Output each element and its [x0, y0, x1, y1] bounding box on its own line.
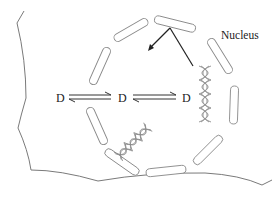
equilibrium-arrow-2 [133, 92, 176, 102]
envelope-segment [206, 37, 234, 75]
envelope-segment [113, 17, 150, 43]
envelope-segment [103, 147, 140, 176]
envelope-segment [154, 15, 197, 33]
envelope-segment [229, 86, 238, 124]
dna-helix-vertical-icon [199, 66, 211, 122]
diagram-canvas: Nucleus D D D [0, 0, 279, 197]
nucleus-label: Nucleus [221, 29, 259, 41]
pointer-arrow-left [150, 28, 170, 48]
species-d-envelope: D [118, 91, 127, 105]
envelope-segment [85, 106, 109, 146]
envelope-segment [192, 134, 225, 167]
envelope-segment [88, 46, 112, 86]
envelope-segment [146, 165, 187, 177]
equilibrium-arrow-1 [69, 92, 111, 102]
pointer-arrow-right [170, 28, 193, 66]
pointer-arrows [148, 28, 193, 66]
species-d-nucleus: D [182, 91, 191, 105]
species-d-cytoplasm: D [56, 91, 65, 105]
nuclear-envelope [85, 15, 238, 177]
